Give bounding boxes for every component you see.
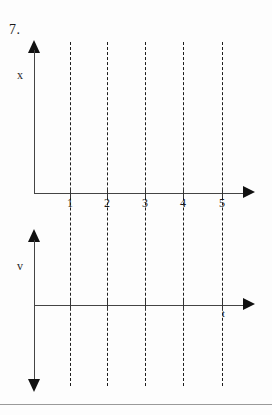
v-axis-arrow-down-icon — [28, 379, 40, 392]
gridline-1 — [70, 42, 71, 386]
x-tick-label-1: 1 — [63, 196, 77, 211]
worksheet-page: 7. x 1 2 3 4 5 v — [0, 0, 272, 415]
gridline-3 — [145, 42, 146, 386]
x-axis-line — [34, 193, 246, 194]
t-axis-line — [34, 305, 246, 306]
gridline-2 — [107, 42, 108, 386]
v-axis-label: v — [17, 259, 23, 274]
t-tick-2 — [107, 300, 108, 310]
x-tick-label-5: 5 — [215, 196, 229, 211]
t-axis-mark: t — [222, 308, 225, 319]
x-axis-arrow-right-icon — [243, 186, 255, 198]
gridline-5 — [222, 42, 223, 386]
t-tick-1 — [70, 300, 71, 310]
t-tick-4 — [183, 300, 184, 310]
y-axis-label: x — [17, 68, 23, 83]
t-axis-arrow-right-icon — [243, 298, 255, 310]
page-divider-rule — [0, 404, 272, 405]
x-tick-label-3: 3 — [138, 196, 152, 211]
x-tick-label-4: 4 — [176, 196, 190, 211]
t-tick-3 — [145, 300, 146, 310]
y-axis-line — [34, 50, 35, 194]
gridline-4 — [183, 42, 184, 386]
v-axis-line — [34, 240, 35, 382]
x-tick-label-2: 2 — [100, 196, 114, 211]
problem-number: 7. — [9, 22, 21, 38]
